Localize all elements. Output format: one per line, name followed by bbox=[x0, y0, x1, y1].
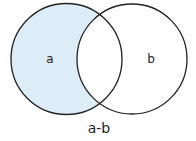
venn-diagram: a b a-b bbox=[0, 0, 196, 141]
set-b-label: b bbox=[147, 52, 155, 66]
set-a-label: a bbox=[46, 52, 53, 66]
caption: a-b bbox=[88, 120, 111, 136]
